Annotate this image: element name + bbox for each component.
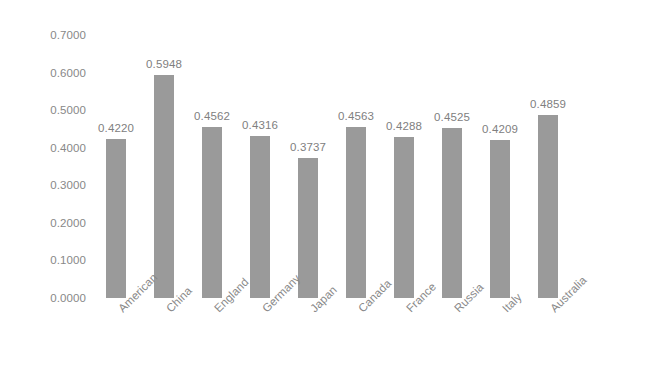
bar-value-label: 0.4209 bbox=[474, 122, 526, 136]
bar[interactable] bbox=[490, 140, 510, 298]
x-axis-tick: France bbox=[380, 300, 428, 380]
bar-group: 0.4563 bbox=[332, 35, 380, 298]
y-axis-tick-label: 0.7000 bbox=[28, 28, 86, 42]
plot-area: 0.42200.59480.45620.43160.37370.45630.42… bbox=[92, 35, 562, 298]
bar[interactable] bbox=[250, 136, 270, 298]
bar-group: 0.5948 bbox=[140, 35, 188, 298]
bar-group: 0.4562 bbox=[188, 35, 236, 298]
y-axis-tick-label: 0.5000 bbox=[28, 103, 86, 117]
bar[interactable] bbox=[442, 128, 462, 298]
bar-group: 0.4209 bbox=[476, 35, 524, 298]
bar-value-label: 0.4288 bbox=[378, 119, 430, 133]
bar-group: 0.4525 bbox=[428, 35, 476, 298]
y-axis-tick-label: 0.1000 bbox=[28, 253, 86, 267]
y-axis: 0.70000.60000.50000.40000.30000.20000.10… bbox=[28, 28, 86, 313]
x-axis-tick: Italy bbox=[476, 300, 524, 380]
x-axis-tick: Russia bbox=[428, 300, 476, 380]
bar-value-label: 0.3737 bbox=[282, 140, 334, 154]
bar-group: 0.3737 bbox=[284, 35, 332, 298]
x-axis: AmericanChinaEnglandGermanyJapanCanadaFr… bbox=[92, 300, 562, 380]
bar[interactable] bbox=[298, 158, 318, 298]
bar[interactable] bbox=[154, 75, 174, 298]
bar-group: 0.4220 bbox=[92, 35, 140, 298]
x-axis-tick: China bbox=[140, 300, 188, 380]
x-axis-tick: Canada bbox=[332, 300, 380, 380]
bar-value-label: 0.4859 bbox=[522, 97, 574, 111]
bar[interactable] bbox=[538, 115, 558, 298]
bar-value-label: 0.4316 bbox=[234, 118, 286, 132]
bar[interactable] bbox=[394, 137, 414, 298]
bar-group: 0.4288 bbox=[380, 35, 428, 298]
bar-group: 0.4859 bbox=[524, 35, 572, 298]
x-axis-tick: Germany bbox=[236, 300, 284, 380]
bar[interactable] bbox=[106, 139, 126, 298]
y-axis-tick-label: 0.0000 bbox=[28, 291, 86, 305]
y-axis-tick-label: 0.2000 bbox=[28, 216, 86, 230]
y-axis-tick-label: 0.6000 bbox=[28, 66, 86, 80]
x-axis-tick: Australia bbox=[524, 300, 572, 380]
bar-value-label: 0.5948 bbox=[138, 57, 190, 71]
y-axis-tick-label: 0.4000 bbox=[28, 141, 86, 155]
bar[interactable] bbox=[346, 127, 366, 298]
x-axis-tick: American bbox=[92, 300, 140, 380]
bar-value-label: 0.4220 bbox=[90, 121, 142, 135]
bar[interactable] bbox=[202, 127, 222, 298]
x-axis-tick: Japan bbox=[284, 300, 332, 380]
bar-value-label: 0.4562 bbox=[186, 109, 238, 123]
bar-group: 0.4316 bbox=[236, 35, 284, 298]
bar-chart: 0.70000.60000.50000.40000.30000.20000.10… bbox=[0, 0, 654, 381]
x-axis-tick: England bbox=[188, 300, 236, 380]
bar-value-label: 0.4525 bbox=[426, 110, 478, 124]
y-axis-tick-label: 0.3000 bbox=[28, 178, 86, 192]
bar-value-label: 0.4563 bbox=[330, 109, 382, 123]
